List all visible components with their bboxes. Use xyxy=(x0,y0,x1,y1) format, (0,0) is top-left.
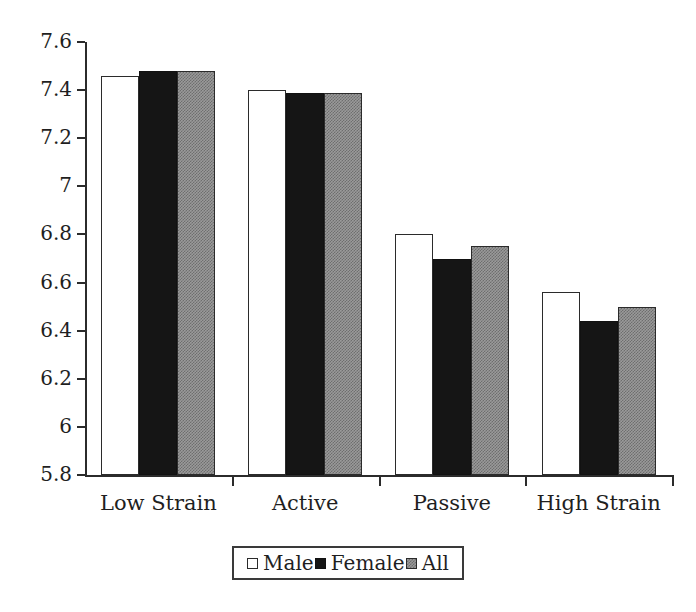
y-tick-mark xyxy=(77,330,85,332)
x-tick-mark xyxy=(525,477,527,486)
y-tick-mark xyxy=(77,474,85,476)
legend-item-male: Male xyxy=(247,553,314,573)
legend-label-all: All xyxy=(422,553,449,573)
y-tick-mark xyxy=(77,378,85,380)
bar-all xyxy=(177,71,215,475)
bar-group xyxy=(395,42,509,475)
bar-male xyxy=(542,292,580,475)
legend-swatch-female-icon xyxy=(315,558,326,569)
y-tick-label-wrap: 6.2 xyxy=(0,368,72,388)
bar-all xyxy=(618,307,656,475)
bar-all xyxy=(471,246,509,475)
y-tick-label: 5.8 xyxy=(4,464,72,484)
y-tick-label-wrap: 7 xyxy=(0,175,72,195)
x-tick-mark xyxy=(379,477,381,486)
bar-female xyxy=(433,259,471,476)
y-tick-mark xyxy=(77,233,85,235)
y-tick-label-wrap: 5.8 xyxy=(0,464,72,484)
bar-male xyxy=(248,90,286,475)
y-tick-label-wrap: 6.6 xyxy=(0,272,72,292)
y-tick-label: 7.2 xyxy=(4,127,72,147)
legend-item-female: Female xyxy=(315,553,405,573)
y-tick-mark xyxy=(77,426,85,428)
y-tick-label: 6 xyxy=(4,416,72,436)
bar-group xyxy=(248,42,362,475)
x-category-label: Low Strain xyxy=(85,490,232,516)
bar-female xyxy=(286,93,324,475)
y-tick-label-wrap: 6.4 xyxy=(0,320,72,340)
legend-swatch-male-icon xyxy=(247,558,258,569)
legend-label-male: Male xyxy=(263,553,314,573)
y-tick-label: 6.8 xyxy=(4,223,72,243)
x-category-label: Active xyxy=(232,490,379,516)
y-tick-mark xyxy=(77,41,85,43)
x-tick-mark xyxy=(232,477,234,486)
y-tick-label-wrap: 7.2 xyxy=(0,127,72,147)
bar-male xyxy=(395,234,433,475)
legend-item-all: All xyxy=(406,553,449,573)
y-tick-label: 6.4 xyxy=(4,320,72,340)
legend-label-female: Female xyxy=(331,553,405,573)
bar-all xyxy=(324,93,362,475)
y-tick-mark xyxy=(77,282,85,284)
y-tick-label: 7.4 xyxy=(4,79,72,99)
bar-group xyxy=(542,42,656,475)
bar-male xyxy=(101,76,139,475)
y-tick-label-wrap: 7.4 xyxy=(0,79,72,99)
y-tick-label: 7.6 xyxy=(4,31,72,51)
bar-female xyxy=(580,321,618,475)
y-tick-label: 7 xyxy=(4,175,72,195)
y-tick-label-wrap: 6.8 xyxy=(0,223,72,243)
plot-area xyxy=(85,42,672,475)
bar-group xyxy=(101,42,215,475)
y-tick-mark xyxy=(77,137,85,139)
bar-chart-figure: 7.67.47.276.86.66.46.265.8 Low StrainAct… xyxy=(0,0,696,612)
x-category-label: High Strain xyxy=(525,490,672,516)
y-tick-label-wrap: 6 xyxy=(0,416,72,436)
x-tick-mark-end xyxy=(672,477,674,486)
y-tick-mark xyxy=(77,89,85,91)
y-tick-label: 6.6 xyxy=(4,272,72,292)
chart-legend: Male Female All xyxy=(232,546,464,580)
bar-female xyxy=(139,71,177,475)
x-category-label: Passive xyxy=(379,490,526,516)
y-tick-mark xyxy=(77,185,85,187)
legend-swatch-all-icon xyxy=(406,558,417,569)
y-tick-label: 6.2 xyxy=(4,368,72,388)
y-tick-label-wrap: 7.6 xyxy=(0,31,72,51)
